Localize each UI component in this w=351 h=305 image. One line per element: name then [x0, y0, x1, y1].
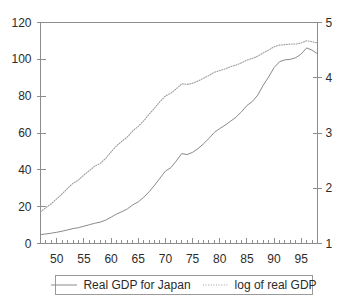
y-axis-right-tick-5: 5: [326, 17, 333, 29]
y-axis-left-tick-20: 20: [0, 201, 32, 213]
legend-entry-real-gdp: Real GDP for Japan: [51, 279, 190, 291]
y-axis-left-tick-0: 0: [0, 238, 32, 250]
x-axis-tick-70: 70: [159, 253, 172, 265]
series-path-0: [41, 48, 318, 235]
x-axis-tick-85: 85: [240, 253, 253, 265]
x-axis-tick-95: 95: [295, 253, 308, 265]
y-axis-left-tick-120: 120: [0, 17, 32, 29]
x-axis-tick-65: 65: [132, 253, 145, 265]
x-axis-tick-80: 80: [213, 253, 226, 265]
y-axis-left-tick-100: 100: [0, 53, 32, 65]
x-axis-tick-50: 50: [50, 253, 63, 265]
series-path-1: [41, 41, 318, 212]
y-axis-left-tick-40: 40: [0, 164, 32, 176]
x-axis-tick-75: 75: [186, 253, 199, 265]
legend-entry-log-real-gdp: log of real GDP: [203, 279, 317, 291]
y-axis-right-tick-3: 3: [326, 127, 333, 139]
x-axis-tick-60: 60: [104, 253, 117, 265]
chart-container: 020406080100120 12345 505560657075808590…: [0, 0, 351, 305]
legend-swatch-solid-line-icon: [51, 280, 77, 290]
y-axis-right-tick-1: 1: [326, 238, 333, 250]
y-axis-left-tick-80: 80: [0, 90, 32, 102]
y-axis-right-tick-4: 4: [326, 72, 333, 84]
legend-swatch-dotted-line-icon: [203, 280, 229, 290]
chart-legend: Real GDP for Japan log of real GDP: [55, 275, 313, 295]
y-axis-right-tick-2: 2: [326, 182, 333, 194]
series-group: [41, 41, 318, 235]
x-axis-tick-55: 55: [77, 253, 90, 265]
axes-group: [37, 23, 322, 244]
x-axis-tick-90: 90: [267, 253, 280, 265]
y-axis-left-tick-60: 60: [0, 127, 32, 139]
legend-label-real-gdp: Real GDP for Japan: [83, 279, 190, 291]
legend-label-log-real-gdp: log of real GDP: [235, 279, 317, 291]
